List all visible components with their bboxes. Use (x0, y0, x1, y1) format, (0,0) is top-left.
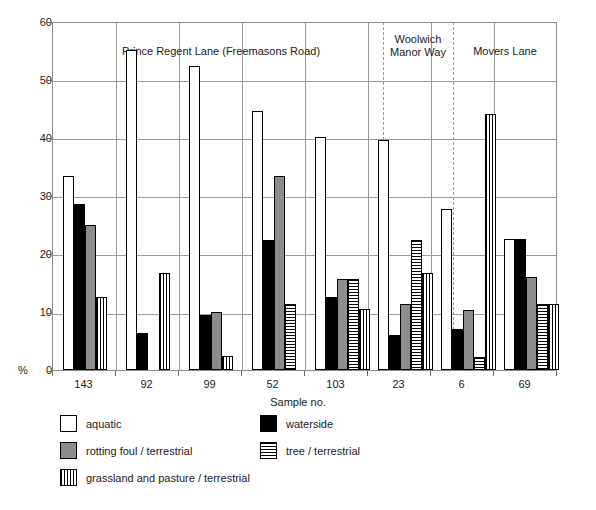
bar-69-waterside (515, 239, 526, 370)
y-tick-label-30: 30 (8, 191, 52, 202)
bar-23-tree (411, 240, 422, 370)
x-tick-label-103: 103 (304, 378, 367, 390)
legend-label-rotting-foul: rotting foul / terrestrial (86, 445, 192, 457)
bar-23-grassland (422, 273, 433, 370)
x-tick-mark-8 (556, 371, 557, 376)
bar-6-rotting-foul (463, 310, 474, 370)
site-label-woolwich-manor-way: Woolwich Manor Way (384, 33, 452, 59)
x-tick-label-99: 99 (178, 378, 241, 390)
plot-area: Prince Regent Lane (Freemasons Road) Woo… (52, 22, 557, 371)
bar-52-rotting-foul (274, 176, 285, 370)
bar-6-tree (474, 357, 485, 370)
site-separator-woolwich-end (453, 22, 454, 370)
bar-6-waterside (452, 329, 463, 370)
bar-99-waterside (200, 315, 211, 370)
site-label-movers-lane-text: Movers Lane (473, 45, 537, 57)
y-tick-label-60: 60 (8, 17, 52, 28)
site-label-movers-lane: Movers Lane (455, 45, 555, 58)
bar-69-grassland (548, 304, 559, 370)
bar-6-aquatic (441, 209, 452, 370)
rotting-foul-swatch-icon (60, 442, 77, 459)
group-separator-4 (305, 23, 306, 370)
site-label-woolwich-line1: Woolwich (395, 33, 442, 45)
y-tick-label-50: 50 (8, 75, 52, 86)
legend-label-grassland: grassland and pasture / terrestrial (86, 472, 250, 484)
bar-143-rotting-foul (85, 225, 96, 370)
chart-figure: 60 50 40 30 20 10 0 % (0, 0, 596, 510)
bar-52-tree (285, 304, 296, 370)
bar-103-grassland (359, 309, 370, 370)
x-tick-mark-3 (241, 371, 242, 376)
y-axis-unit-label: % (18, 365, 28, 376)
y-tick-label-0: 0 (8, 365, 52, 376)
x-tick-label-6: 6 (430, 378, 493, 390)
legend-label-aquatic: aquatic (86, 418, 121, 430)
bar-6-grassland (485, 114, 496, 370)
bar-99-grassland (222, 356, 233, 370)
x-tick-label-23: 23 (367, 378, 430, 390)
bar-143-grassland (96, 297, 107, 370)
legend-item-waterside: waterside (260, 415, 333, 432)
bar-92-waterside (137, 333, 148, 370)
bar-52-waterside (263, 240, 274, 370)
legend-label-waterside: waterside (286, 418, 333, 430)
y-tick-label-40: 40 (8, 133, 52, 144)
bar-23-aquatic (378, 140, 389, 370)
bar-92-aquatic (126, 50, 137, 370)
x-axis-title: Sample no. (0, 396, 596, 408)
bar-92-grassland (159, 273, 170, 370)
x-tick-mark-2 (178, 371, 179, 376)
y-tick-label-10: 10 (8, 307, 52, 318)
x-tick-mark-1 (115, 371, 116, 376)
group-separator-3 (242, 23, 243, 370)
x-tick-label-143: 143 (52, 378, 115, 390)
bar-52-aquatic (252, 111, 263, 370)
bar-103-waterside (326, 297, 337, 370)
bar-23-rotting-foul (400, 304, 411, 370)
legend-label-tree: tree / terrestrial (286, 445, 360, 457)
site-label-prince-regent-lane-text: Prince Regent Lane (Freemasons Road) (122, 45, 320, 57)
legend-item-grassland: grassland and pasture / terrestrial (60, 469, 250, 486)
bar-23-waterside (389, 335, 400, 370)
site-label-prince-regent-lane: Prince Regent Lane (Freemasons Road) (63, 45, 379, 58)
group-separator-1 (116, 23, 117, 370)
legend-item-tree: tree / terrestrial (260, 442, 360, 459)
bar-103-rotting-foul (337, 279, 348, 370)
bar-143-waterside (74, 204, 85, 370)
bar-103-aquatic (315, 137, 326, 370)
site-label-woolwich-line2: Manor Way (390, 46, 446, 58)
bar-69-aquatic (504, 239, 515, 370)
waterside-swatch-icon (260, 415, 277, 432)
tree-swatch-icon (260, 442, 277, 459)
x-tick-mark-7 (493, 371, 494, 376)
x-tick-label-92: 92 (115, 378, 178, 390)
legend-item-aquatic: aquatic (60, 415, 121, 432)
bar-143-aquatic (63, 176, 74, 370)
chart-legend: aquatic waterside rotting foul / terrest… (60, 415, 580, 495)
x-tick-label-52: 52 (241, 378, 304, 390)
x-tick-mark-0 (52, 371, 53, 376)
y-axis: 60 50 40 30 20 10 0 % (0, 0, 52, 400)
x-tick-mark-6 (430, 371, 431, 376)
x-tick-label-69: 69 (493, 378, 556, 390)
bar-99-aquatic (189, 66, 200, 370)
bar-69-tree (537, 304, 548, 370)
bar-69-rotting-foul (526, 277, 537, 370)
legend-item-rotting-foul: rotting foul / terrestrial (60, 442, 192, 459)
bar-99-rotting-foul (211, 312, 222, 370)
grassland-swatch-icon (60, 469, 77, 486)
x-tick-mark-4 (304, 371, 305, 376)
aquatic-swatch-icon (60, 415, 77, 432)
y-tick-label-20: 20 (8, 249, 52, 260)
group-separator-2 (179, 23, 180, 370)
bar-103-tree (348, 279, 359, 370)
x-tick-mark-5 (367, 371, 368, 376)
